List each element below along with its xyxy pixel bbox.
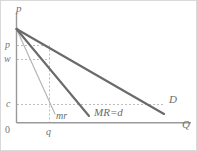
curve-origin-vertex [16, 28, 19, 31]
y-axis-label: p [16, 3, 22, 14]
curve-MR-d [17, 29, 90, 116]
y-tick-label-c: c [6, 99, 10, 109]
curve-label-d: D [169, 94, 177, 105]
curve-label-mr: mr [56, 111, 67, 121]
x-axis-label: Q [182, 119, 190, 130]
y-tick-label-w: w [4, 54, 11, 64]
origin-label: 0 [5, 125, 10, 135]
economics-demand-diagram: p Q 0 p w c q mr MR=d D [0, 0, 197, 151]
diagram-canvas [1, 1, 197, 151]
curve-label-mr-equals-d: MR=d [94, 107, 123, 118]
x-tick-label-q: q [46, 127, 51, 137]
y-tick-label-p: p [5, 40, 10, 50]
curve-D [17, 29, 165, 114]
